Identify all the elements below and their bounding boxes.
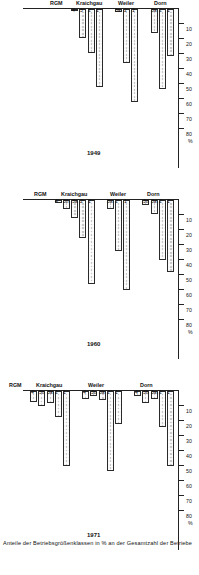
bar-category-label: 1 <box>168 7 171 13</box>
x-axis-tick-label: 40 <box>186 262 192 268</box>
x-axis-tick <box>178 274 184 275</box>
rgm-label: RGM <box>50 0 63 6</box>
x-axis-tick-label: 70 <box>186 498 192 504</box>
x-axis-tick-label: 20 <box>186 423 192 429</box>
group-label-kraichgau: Kraichgau <box>36 382 62 388</box>
bar-category-label: 2 <box>88 7 91 13</box>
x-axis-tick-label: 70 <box>186 307 192 313</box>
x-axis-tick-label: 40 <box>186 71 192 77</box>
bar-category-label: 3a <box>151 7 157 13</box>
bar-category-label: 4 <box>72 7 75 13</box>
group-label-weiler: Weiler <box>88 382 104 388</box>
x-axis-unit-label: % <box>188 520 193 526</box>
bar <box>167 391 174 466</box>
x-axis-tick-label: 50 <box>186 468 192 474</box>
x-axis-tick <box>178 405 184 406</box>
chart-panel-1949: 1020304050607080%123aDorn123aWeiler1234K… <box>0 8 199 199</box>
x-axis-tick-label: 20 <box>186 232 192 238</box>
bar-category-label: 4 <box>135 389 138 395</box>
bar <box>159 200 166 260</box>
x-axis-tick <box>178 68 184 69</box>
bar <box>79 9 86 38</box>
group-label-kraichgau: Kraichgau <box>61 191 87 197</box>
rgm-label: RGM <box>34 191 47 197</box>
x-axis-tick-label: 10 <box>186 217 192 223</box>
bar-category-label: 3b <box>143 198 149 204</box>
bar-category-label: 3b <box>39 389 45 395</box>
bar <box>123 9 130 63</box>
group-label-dorn: Dorn <box>154 0 167 6</box>
group-label-kraichgau: Kraichgau <box>76 0 102 6</box>
bar-category-label: 1 <box>96 7 99 13</box>
bar <box>167 200 174 272</box>
bar-category-label: 2 <box>80 198 83 204</box>
x-axis-tick <box>178 465 184 466</box>
bar-category-label: 2 <box>107 389 110 395</box>
bar-category-label: 3a <box>99 389 105 395</box>
panel-year-label: 1971 <box>87 532 100 538</box>
bar-chart-figure: Anteile der Betriebsgrößenklassen in % a… <box>0 0 199 575</box>
bar-category-label: 2 <box>55 389 58 395</box>
x-axis-tick-label: 40 <box>186 453 192 459</box>
bar-category-label: 3a <box>151 389 157 395</box>
x-axis-tick <box>178 420 184 421</box>
x-axis-tick <box>178 495 184 496</box>
bar-category-label: 3a <box>151 198 157 204</box>
x-axis-tick <box>178 450 184 451</box>
x-axis-rail <box>178 199 179 359</box>
x-axis-tick-label: 80 <box>186 513 192 519</box>
group-label-dorn: Dorn <box>140 382 153 388</box>
x-axis-tick-label: 60 <box>186 101 192 107</box>
group-label-dorn: Dorn <box>147 191 160 197</box>
x-axis-tick <box>178 289 184 290</box>
x-axis-tick <box>178 304 184 305</box>
bar <box>159 9 166 89</box>
x-axis-tick <box>178 435 184 436</box>
bar-category-label: 3a <box>72 198 78 204</box>
chart-panel-1960: 1020304050607080%123a3bDorn123aWeiler123… <box>0 199 199 390</box>
x-axis-tick-label: 50 <box>186 86 192 92</box>
bar-category-label: 2 <box>159 198 162 204</box>
bar-category-label: 3a <box>116 7 122 13</box>
group-label-weiler: Weiler <box>110 191 126 197</box>
x-axis-tick <box>178 319 184 320</box>
x-axis-tick-label: 30 <box>186 56 192 62</box>
bar-category-label: 3b <box>64 198 70 204</box>
bar-category-label: 1 <box>88 198 91 204</box>
x-axis-tick-label: 80 <box>186 131 192 137</box>
x-axis-tick-label: 80 <box>186 322 192 328</box>
bar-category-label: 4 <box>55 198 58 204</box>
x-axis-tick <box>178 53 184 54</box>
bar <box>88 9 95 53</box>
x-axis-rail <box>178 390 179 550</box>
x-axis-tick <box>178 214 184 215</box>
bar <box>131 9 138 102</box>
bar <box>167 9 174 56</box>
bar-category-label: 3a <box>107 198 113 204</box>
group-label-weiler: Weiler <box>118 0 134 6</box>
figure-rotation-wrapper: Anteile der Betriebsgrößenklassen in % a… <box>0 0 199 575</box>
x-axis-tick-label: 30 <box>186 438 192 444</box>
x-axis-unit-label: % <box>188 329 193 335</box>
bar-category-label: 3b <box>143 389 149 395</box>
bar-category-label: 1 <box>64 389 67 395</box>
x-axis-tick <box>178 38 184 39</box>
panel-year-label: 1949 <box>87 150 100 156</box>
x-axis-tick <box>178 23 184 24</box>
x-axis-tick <box>178 244 184 245</box>
x-axis-unit-label: % <box>188 138 193 144</box>
bar-category-label: 3a <box>47 389 53 395</box>
bar <box>96 9 103 87</box>
bar <box>107 391 114 471</box>
bar-category-label: 2 <box>116 198 119 204</box>
x-axis-tick <box>178 480 184 481</box>
x-axis-tick-label: 50 <box>186 277 192 283</box>
bar-category-label: 2 <box>159 7 162 13</box>
bar-category-label: 1 <box>168 198 171 204</box>
chart-panel-1971: 1020304050607080%123a3b4Dorn123a3b4Weile… <box>0 390 199 575</box>
x-axis-tick <box>178 113 184 114</box>
x-axis-tick <box>178 83 184 84</box>
x-axis-tick <box>178 128 184 129</box>
x-axis-tick-label: 20 <box>186 41 192 47</box>
bar-category-label: 4 <box>83 389 86 395</box>
